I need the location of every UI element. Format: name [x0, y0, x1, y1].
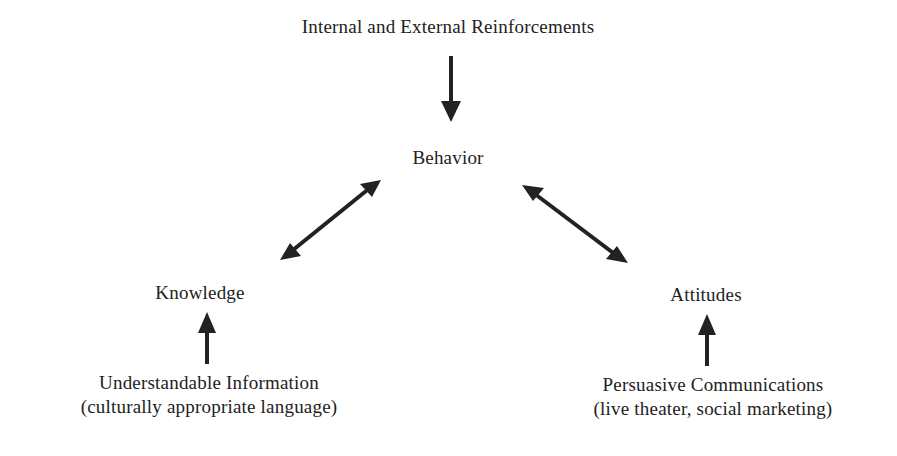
double-arrow-knowledge-behavior-icon	[280, 180, 381, 260]
arrow-up-attitudes-icon	[698, 314, 716, 366]
double-arrow-behavior-attitudes-icon	[522, 185, 628, 263]
arrows-layer	[0, 0, 897, 456]
arrow-up-knowledge-icon	[198, 312, 216, 364]
arrow-down-icon	[441, 56, 461, 122]
